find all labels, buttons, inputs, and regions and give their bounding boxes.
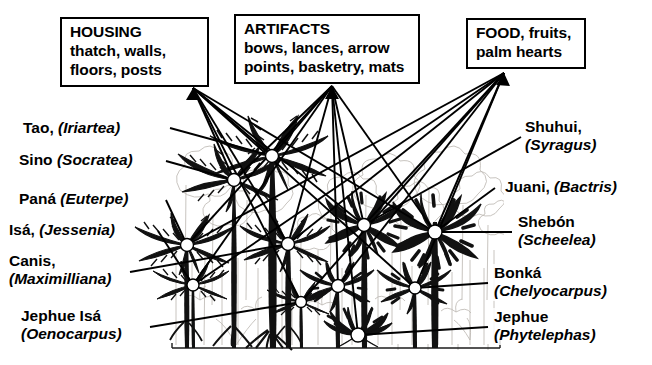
- species-label-pana[interactable]: Paná (Euterpe): [18, 190, 129, 208]
- species-label-isa[interactable]: Isá, (Jessenia): [8, 221, 116, 239]
- species-label-juani[interactable]: Juani, (Bactris): [504, 178, 618, 196]
- species-label-shebon[interactable]: Shebón (Scheelea): [517, 213, 597, 250]
- species-label-jephue-isa[interactable]: Jephue Isá (Oenocarpus): [20, 307, 123, 344]
- species-tao-genus: (Iriartea): [58, 119, 120, 136]
- species-jephue-isa-genus: (Oenocarpus): [21, 325, 122, 343]
- species-juani-genus: (Bactris): [554, 178, 617, 195]
- palm-pana: [135, 213, 233, 348]
- species-pana-common: Paná: [19, 190, 60, 207]
- category-box-food[interactable]: FOOD, fruits, palm hearts: [466, 18, 586, 69]
- species-label-canis[interactable]: Canis, (Maximilliana): [8, 252, 113, 289]
- species-shuhui-common: Shuhui,: [525, 118, 582, 135]
- species-bonka-genus: (Chelyocarpus): [494, 282, 607, 300]
- species-sino-common: Sino: [19, 151, 57, 168]
- category-food-line-2: palm hearts: [476, 43, 577, 62]
- category-housing-line-3: floors, posts: [70, 61, 200, 80]
- category-artifacts-title: ARTIFACTS: [244, 20, 411, 39]
- species-label-shuhui[interactable]: Shuhui, (Syragus): [524, 118, 598, 155]
- species-isa-genus: (Jessenia): [39, 221, 115, 238]
- palm-jephue: [324, 307, 392, 347]
- species-isa-common: Isá,: [9, 221, 39, 238]
- category-artifacts-line-3: points, basketry, mats: [244, 58, 411, 77]
- species-pana-genus: (Euterpe): [60, 190, 128, 207]
- species-canis-common: Canis,: [9, 252, 56, 269]
- figure-canvas: HOUSING thatch, walls, floors, posts ART…: [0, 0, 652, 365]
- species-tao-common: Tao,: [23, 119, 58, 136]
- species-jephue-genus: (Phytelephas): [494, 326, 596, 344]
- species-shebon-genus: (Scheelea): [518, 231, 596, 249]
- palm-silhouettes: [135, 116, 481, 350]
- palm-isa: [153, 261, 229, 348]
- species-label-jephue[interactable]: Jephue (Phytelephas): [493, 308, 597, 345]
- species-label-tao[interactable]: Tao, (Iriartea): [22, 119, 121, 137]
- category-box-housing[interactable]: HOUSING thatch, walls, floors, posts: [60, 17, 209, 87]
- category-housing-title: HOUSING: [70, 23, 200, 42]
- species-juani-common: Juani,: [505, 178, 554, 195]
- species-canis-genus: (Maximilliana): [9, 270, 112, 288]
- category-artifacts-line-2: bows, lances, arrow: [244, 39, 411, 58]
- species-shebon-common: Shebón: [518, 213, 575, 230]
- category-food-title: FOOD, fruits,: [476, 24, 577, 43]
- category-box-artifacts[interactable]: ARTIFACTS bows, lances, arrow points, ba…: [234, 14, 420, 84]
- species-bonka-common: Bonká: [494, 264, 541, 281]
- species-label-sino[interactable]: Sino (Socratea): [18, 151, 134, 169]
- species-jephue-isa-common: Jephue Isá: [21, 307, 101, 324]
- species-sino-genus: (Socratea): [57, 151, 133, 168]
- species-jephue-common: Jephue: [494, 308, 548, 325]
- species-label-bonka[interactable]: Bonká (Chelyocarpus): [493, 264, 608, 301]
- species-shuhui-genus: (Syragus): [525, 136, 597, 154]
- palm-bonka: [377, 262, 451, 348]
- category-housing-line-2: thatch, walls,: [70, 42, 200, 61]
